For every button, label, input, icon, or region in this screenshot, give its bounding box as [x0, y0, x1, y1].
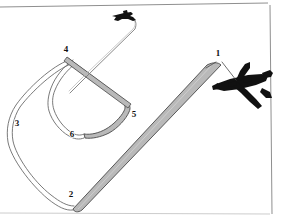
diagram-canvas: 1 2 3 4 5 6	[0, 0, 281, 221]
callout-label-3: 3	[15, 118, 20, 128]
diagram-figure: 1 2 3 4 5 6	[0, 0, 281, 221]
callout-label-4: 4	[64, 44, 69, 54]
callout-label-5: 5	[132, 109, 137, 119]
callout-label-2: 2	[69, 189, 74, 199]
callout-label-1: 1	[216, 48, 221, 58]
callout-label-6: 6	[70, 129, 75, 139]
